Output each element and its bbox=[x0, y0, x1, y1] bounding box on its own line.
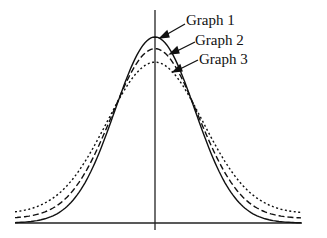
graph-2-curve bbox=[15, 49, 301, 218]
graph-1-label: Graph 1 bbox=[186, 13, 235, 28]
chart: Graph 1 Graph 2 Graph 3 bbox=[0, 0, 327, 238]
plot-area bbox=[0, 0, 327, 238]
graph-3-label: Graph 3 bbox=[199, 52, 248, 67]
graph-3-curve bbox=[15, 62, 301, 212]
annotation-arrows bbox=[160, 24, 198, 72]
graph-2-label: Graph 2 bbox=[195, 33, 244, 48]
